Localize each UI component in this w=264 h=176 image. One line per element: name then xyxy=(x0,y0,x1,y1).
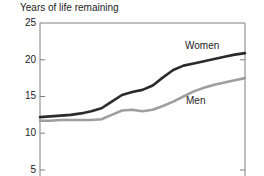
plot-area xyxy=(0,0,264,176)
series-label-women: Women xyxy=(185,41,219,51)
series-label-men: Men xyxy=(186,96,205,106)
chart-figure: Years of life remaining 25 20 15 10 5 Wo… xyxy=(0,0,264,176)
